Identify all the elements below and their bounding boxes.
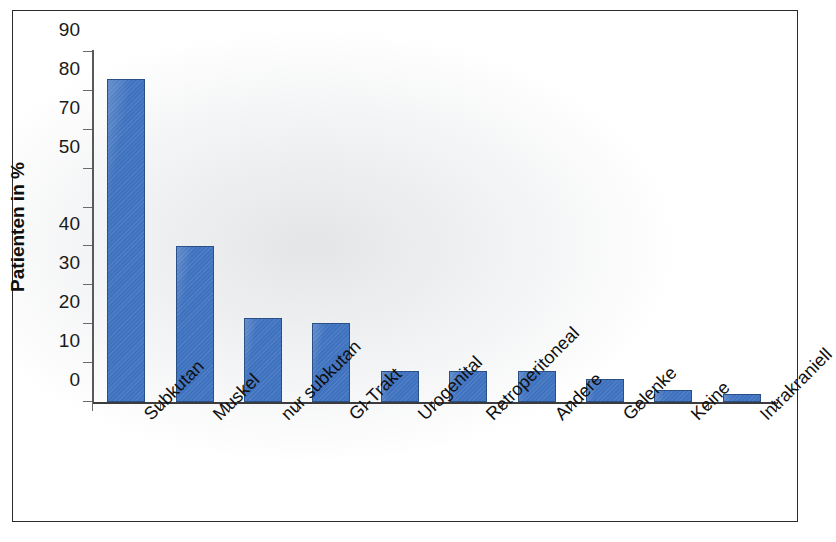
y-axis-tick: [83, 362, 92, 363]
y-axis-tick-label: 20: [59, 291, 80, 313]
y-axis-tick: [83, 207, 92, 208]
y-axis-title: Patienten in %: [7, 162, 29, 292]
bar: [107, 79, 145, 402]
y-axis-tick: [83, 401, 92, 402]
y-axis-tick-label: 40: [59, 213, 80, 235]
y-axis-tick: [83, 323, 92, 324]
y-axis-tick-label: 50: [59, 136, 80, 158]
y-axis-tick: [83, 245, 92, 246]
y-axis-tick-label: 10: [59, 330, 80, 352]
y-axis-tick: [83, 284, 92, 285]
y-axis-tick: [83, 90, 92, 91]
y-axis-tick-label: 90: [59, 19, 80, 41]
y-axis-tick-label: 30: [59, 252, 80, 274]
y-axis-tick-label: 0: [69, 369, 80, 391]
y-axis-tick-label: 70: [59, 97, 80, 119]
y-axis-tick: [83, 51, 92, 52]
y-axis-tick: [83, 168, 92, 169]
plot-area: 01020304050708090: [92, 52, 776, 402]
y-axis-tick: [83, 129, 92, 130]
y-axis-tick-label: 80: [59, 58, 80, 80]
x-axis-tick: [92, 402, 93, 411]
